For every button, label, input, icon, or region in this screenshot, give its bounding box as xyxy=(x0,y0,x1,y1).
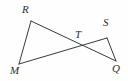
geometry-figure: R M T S Q xyxy=(0,0,128,81)
vertex-label-M: M xyxy=(10,65,19,76)
figure-canvas xyxy=(0,0,128,81)
vertex-label-T: T xyxy=(75,29,81,40)
segment-RM xyxy=(19,21,31,64)
vertex-label-R: R xyxy=(22,4,29,15)
vertex-label-Q: Q xyxy=(112,63,120,74)
vertex-label-S: S xyxy=(103,17,109,28)
